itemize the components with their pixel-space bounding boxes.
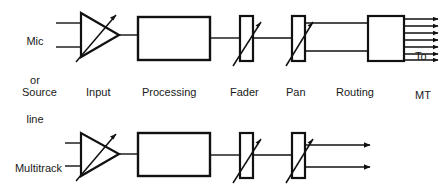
pan-to-routing-links (305, 23, 368, 51)
source-input-leads (56, 23, 81, 47)
monitor-destination-label-line-1: To (376, 183, 427, 187)
stage-label-processing: Processing (142, 86, 196, 98)
processing-block (138, 17, 210, 60)
stage-label-pan: Pan (286, 86, 306, 98)
channel-destination-label-line-1: To (415, 50, 431, 63)
monitor-source-label: Multitrack replay (0, 136, 62, 187)
monitor-path-row (65, 133, 370, 183)
channel-path-row (56, 13, 438, 66)
channel-destination-label: To MT (415, 24, 431, 128)
monitor-processing-block (138, 133, 210, 176)
channel-source-label-line-3: line (14, 113, 56, 126)
input-amplifier-triangle (76, 13, 119, 62)
stage-label-routing: Routing (336, 86, 374, 98)
monitor-destination-label: To stereo mix (376, 139, 427, 187)
monitor-source-leads (65, 143, 81, 166)
monitor-source-label-line-1: Multitrack (0, 162, 62, 175)
stereo-mix-output-arrows (305, 145, 370, 167)
signal-flow-diagram: Mic or line To MT Source Input Processin… (0, 0, 444, 187)
channel-destination-label-line-2: MT (415, 89, 431, 102)
channel-source-label-line-1: Mic (14, 35, 56, 48)
stage-label-source: Source (22, 86, 57, 98)
fader-element (233, 16, 261, 66)
routing-matrix-block (368, 16, 404, 61)
monitor-amplifier-triangle (76, 133, 119, 181)
monitor-fader-element (233, 133, 261, 183)
channel-source-label: Mic or line (14, 9, 56, 152)
stage-label-fader: Fader (230, 86, 259, 98)
monitor-pan-element (286, 133, 313, 183)
stage-label-input: Input (86, 86, 110, 98)
